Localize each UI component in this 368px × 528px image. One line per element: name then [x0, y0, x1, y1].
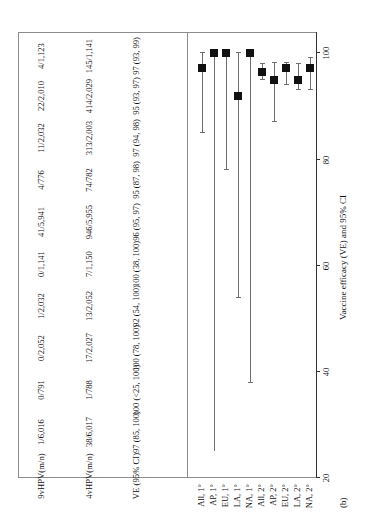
ci-whisker [250, 53, 251, 383]
x-axis-line [316, 32, 317, 478]
ci-cap-high [284, 62, 289, 63]
ci-cap-high [296, 63, 301, 64]
panel-label: (b) [338, 498, 348, 509]
point-estimate-marker [258, 68, 266, 76]
ci-whisker [226, 53, 227, 170]
ci-cap-low [236, 297, 241, 298]
x-tick-100 [316, 52, 320, 53]
x-tick-20 [316, 477, 320, 478]
rotated-figure-stage: 9vHPV(m/n) 4vHPV(m/n) VE (95% CI) 1/6,01… [0, 0, 368, 528]
point-estimate-marker [282, 64, 290, 72]
cell-hpv9: 4/1,123 [36, 26, 46, 86]
plot-left-border [188, 477, 316, 478]
ci-cap-low [224, 169, 229, 170]
point-estimate-marker [210, 49, 218, 57]
category-label-ap-2: AP, 2° [268, 484, 278, 528]
x-tick-label: 60 [321, 262, 331, 271]
category-label-na-1: NA, 1° [244, 484, 254, 528]
point-estimate-marker [246, 49, 254, 57]
ci-cap-low [284, 84, 289, 85]
ci-cap-low [296, 89, 301, 90]
data-table: 9vHPV(m/n) 4vHPV(m/n) VE (95% CI) 1/6,01… [18, 32, 188, 478]
ci-cap-low [248, 382, 253, 383]
ci-whisker [238, 53, 239, 298]
point-estimate-marker [222, 49, 230, 57]
point-estimate-marker [306, 64, 314, 72]
x-tick-label: 80 [321, 156, 331, 165]
ci-cap-low [272, 121, 277, 122]
cell-hpv4: 145/1,141 [84, 26, 94, 86]
x-tick-label: 20 [321, 474, 331, 483]
ci-cap-high [308, 57, 313, 58]
category-label-na-2: NA, 2° [304, 484, 314, 528]
x-tick-label: 40 [321, 368, 331, 377]
point-estimate-marker [234, 92, 242, 100]
category-label-all-1: All, 1° [196, 484, 206, 528]
point-estimate-marker [270, 76, 278, 84]
x-tick-60 [316, 265, 320, 266]
ci-cap-high [236, 52, 241, 53]
category-label-la-1: LA, 1° [232, 484, 242, 528]
category-label-la-2: LA, 2° [292, 484, 302, 528]
ci-cap-high [272, 62, 277, 63]
ci-cap-high [260, 63, 265, 64]
forest-plot-panel: 20 40 60 80 100 [188, 32, 316, 478]
point-estimate-marker [198, 64, 206, 72]
forest-plot-figure: 9vHPV(m/n) 4vHPV(m/n) VE (95% CI) 1/6,01… [0, 0, 368, 528]
table-top-rule [18, 32, 19, 478]
ci-cap-low [200, 132, 205, 133]
category-label-eu-2: EU, 2° [280, 484, 290, 528]
ci-whisker [214, 53, 215, 451]
point-estimate-marker [294, 76, 302, 84]
ci-cap-low [260, 79, 265, 80]
x-axis-title: Vaccine efficacy (VE) and 95% CI [338, 195, 348, 320]
category-label-ap-1: AP, 1° [208, 484, 218, 528]
x-tick-label: 100 [321, 47, 331, 60]
plot-right-border [188, 32, 316, 33]
category-label-eu-1: EU, 1° [220, 484, 230, 528]
cell-ve: 97 (93, 99) [131, 18, 141, 94]
ci-cap-low [308, 89, 313, 90]
ci-cap-high [200, 52, 205, 53]
x-tick-40 [316, 371, 320, 372]
ci-whisker [310, 58, 311, 90]
x-tick-80 [316, 159, 320, 160]
category-label-all-2: All, 2° [256, 484, 266, 528]
ci-whisker [274, 63, 275, 122]
